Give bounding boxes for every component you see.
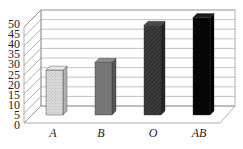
bar-ab: [193, 14, 214, 116]
left-wall-line: [24, 77, 41, 94]
bar-top: [46, 66, 67, 70]
bar-side: [63, 66, 67, 115]
left-wall-line: [24, 87, 41, 104]
bar-front: [144, 25, 161, 115]
x-label-a: A: [48, 126, 57, 140]
bar-side: [112, 58, 116, 115]
bar-chart: 0 5 10 15 20 25 30 35 40 45 50 A B O AB: [0, 0, 243, 149]
x-label-o: O: [149, 126, 158, 140]
bar-side: [161, 21, 165, 115]
x-label-b: B: [97, 126, 105, 140]
left-wall-line: [24, 58, 41, 75]
left-wall-line: [24, 10, 41, 27]
bar-front: [46, 70, 63, 115]
bar-side: [210, 14, 214, 116]
bar-o: [144, 21, 165, 115]
bar-b: [95, 58, 116, 115]
left-wall-line: [24, 20, 41, 37]
bar-front: [193, 18, 210, 116]
left-wall-line: [24, 68, 41, 85]
bar-a: [46, 66, 67, 115]
y-tick-50: 50: [8, 17, 20, 31]
bar-top: [144, 21, 165, 25]
left-wall-line: [24, 48, 41, 65]
bar-top: [95, 58, 116, 62]
bar-top: [193, 14, 214, 18]
left-wall-line: [24, 29, 41, 46]
left-wall-hatch: [24, 10, 41, 123]
x-label-ab: AB: [191, 126, 207, 140]
left-wall-line: [24, 39, 41, 56]
bar-front: [95, 62, 112, 115]
left-wall-line: [24, 96, 41, 113]
